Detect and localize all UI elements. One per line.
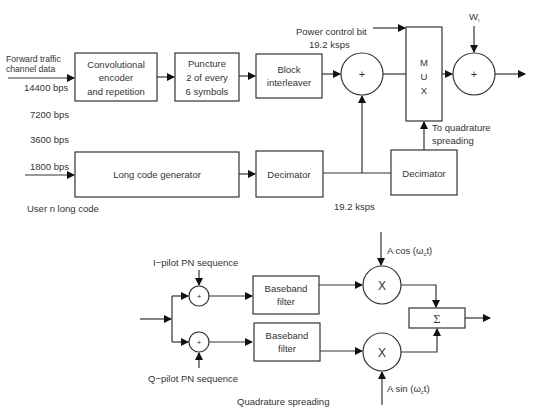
conv-encoder-line1: Convolutional (87, 59, 145, 70)
interleaver-line2: interleaver (267, 77, 311, 88)
arrow-sin-to-sigma (401, 329, 437, 352)
sigma-symbol: Σ (434, 312, 441, 326)
i-pilot-label: I−pilot PN sequence (153, 257, 238, 268)
mux-letter-m: M (420, 57, 428, 68)
interleaver-line1: Block (277, 64, 300, 75)
puncture-line2: 2 of every (186, 72, 228, 83)
block-interleaver-box (256, 54, 322, 98)
filter2-line1: Baseband (266, 330, 309, 341)
to-quadrature-line2: spreading (432, 135, 474, 146)
decimator-1-label: Decimator (267, 169, 310, 180)
cdma-forward-channel-diagram: Forward traffic channel data 14400 bps 7… (0, 0, 541, 416)
user-long-code-label: User n long code (27, 203, 99, 214)
cos-label: A cos (ωct) (387, 245, 432, 257)
puncture-line3: 6 symbols (186, 86, 229, 97)
decimator-2-label: Decimator (402, 168, 445, 179)
rate-14400: 14400 bps (24, 82, 69, 93)
rate-3600: 3600 bps (30, 134, 69, 145)
long-code-generator-label: Long code generator (113, 169, 201, 180)
rate-7200: 7200 bps (30, 109, 69, 120)
q-sum-symbol: + (197, 338, 202, 347)
conv-encoder-line2: encoder (99, 72, 133, 83)
filter1-line2: filter (277, 296, 295, 307)
power-control-label: Power control bit (296, 26, 367, 37)
rate-top-label: 19.2 ksps (309, 39, 350, 50)
sum-symbol-2: + (471, 68, 477, 80)
sin-label: A sin (ωct) (387, 383, 430, 395)
q-pilot-label: Q−pilot PN sequence (148, 373, 238, 384)
i-sum-symbol: + (197, 292, 202, 301)
quadrature-spreading-caption: Quadrature spreading (237, 396, 329, 407)
mux-letter-u: U (421, 71, 428, 82)
walsh-label: Wi (469, 11, 479, 23)
rate-bottom-label: 19.2 ksps (334, 201, 375, 212)
mux-letter-x: X (421, 85, 428, 96)
filter1-line1: Baseband (265, 283, 308, 294)
filter2-line2: filter (278, 343, 296, 354)
sum-symbol-1: + (359, 68, 365, 80)
mult-symbol-cos: X (378, 279, 386, 293)
conv-encoder-line3: and repetition (87, 86, 145, 97)
baseband-filter-1-box (253, 276, 319, 314)
baseband-filter-2-box (254, 323, 320, 361)
input-label-line1: Forward traffic (6, 54, 61, 64)
input-label-line2: channel data (6, 64, 55, 74)
to-quadrature-line1: To quadrature (432, 122, 491, 133)
puncture-line1: Puncture (188, 58, 226, 69)
arrow-cos-to-sigma (401, 285, 436, 307)
rate-1800: 1800 bps (30, 161, 69, 172)
mult-symbol-sin: X (378, 346, 386, 360)
